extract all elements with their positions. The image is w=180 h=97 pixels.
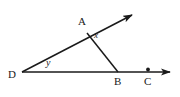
ray-d-upper <box>22 15 132 72</box>
figure-canvas <box>0 0 180 97</box>
point-dot-c <box>146 68 150 72</box>
point-label-d: D <box>8 69 16 80</box>
geometry-figure: A B C D x y <box>0 0 180 97</box>
point-label-c: C <box>144 76 151 87</box>
point-label-b: B <box>114 76 121 87</box>
segment-ab <box>87 33 118 72</box>
angle-label-y: y <box>46 58 50 68</box>
point-label-a: A <box>78 16 86 27</box>
angle-label-x: x <box>94 31 98 40</box>
